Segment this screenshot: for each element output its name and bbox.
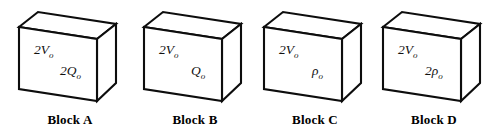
block-d-front-face — [383, 27, 461, 101]
block-c-volume-label: 2Vo — [279, 43, 299, 60]
block-c-side-face — [342, 24, 361, 101]
block-b-quantity-label: Qo — [191, 64, 205, 81]
block-a-shape — [8, 0, 132, 110]
block-group-c: 2Vo ρo Block C — [253, 0, 377, 133]
block-d-side-face — [461, 24, 480, 101]
block-b-shape — [133, 0, 257, 110]
block-c-quantity-label: ρo — [312, 64, 323, 81]
block-a-side-face — [97, 24, 116, 101]
block-a-front-face — [19, 27, 97, 101]
block-c-front-face — [264, 27, 342, 101]
block-d-quantity-label: 2ρo — [425, 64, 443, 81]
block-c-shape — [253, 0, 377, 110]
block-d-volume-label: 2Vo — [398, 43, 418, 60]
block-b-caption: Block B — [133, 112, 257, 128]
block-d-caption: Block D — [372, 112, 494, 128]
block-b-volume-label: 2Vo — [159, 43, 179, 60]
blocks-figure: 2Vo 2Qo Block A 2Vo Qo Block B 2Vo ρo Bl… — [0, 0, 494, 133]
block-a-quantity-label: 2Qo — [60, 64, 81, 81]
block-d-shape — [372, 0, 494, 110]
block-a-volume-label: 2Vo — [34, 43, 54, 60]
block-group-b: 2Vo Qo Block B — [133, 0, 257, 133]
block-group-a: 2Vo 2Qo Block A — [8, 0, 132, 133]
block-b-front-face — [144, 27, 222, 101]
block-b-side-face — [222, 24, 241, 101]
block-c-caption: Block C — [253, 112, 377, 128]
block-group-d: 2Vo 2ρo Block D — [372, 0, 494, 133]
block-a-caption: Block A — [8, 112, 132, 128]
